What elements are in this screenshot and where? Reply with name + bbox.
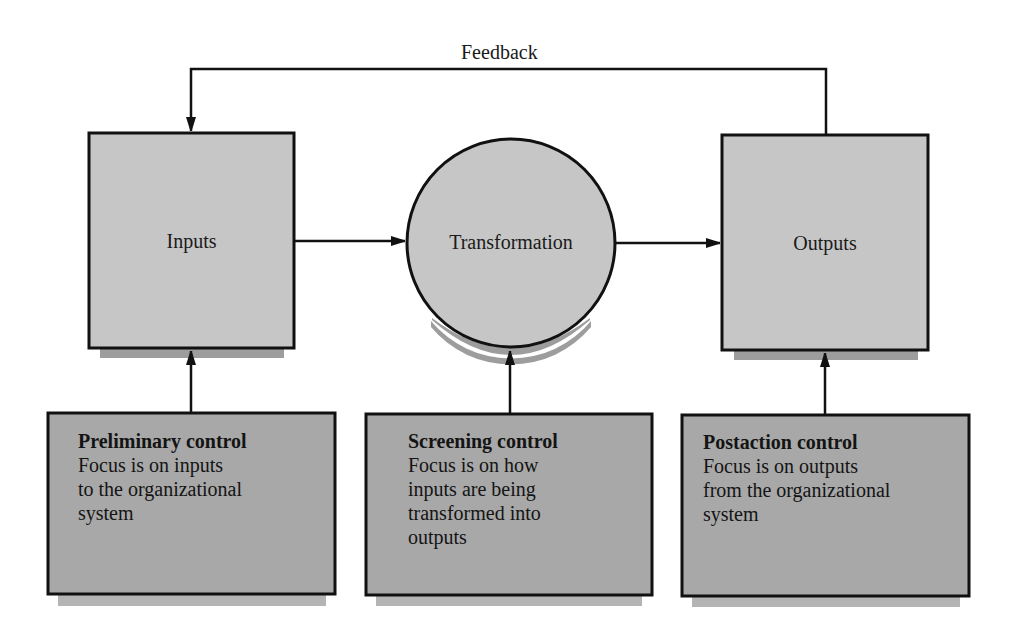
postaction-control-line: system [703,502,890,526]
preliminary-shadow [58,595,326,606]
feedback-label: Feedback [461,42,538,62]
screening-shadow [376,595,642,606]
postaction-control-title: Postaction control [703,430,890,454]
screening-control-line: Focus is on how [408,453,558,477]
postaction-control-line: from the organizational [703,478,890,502]
feedback-connector [191,69,826,134]
outputs-label: Outputs [722,233,928,253]
preliminary-control-text: Preliminary control Focus is on inputs t… [78,429,247,525]
postaction-control-text: Postaction control Focus is on outputs f… [703,430,890,526]
preliminary-control-line: to the organizational [78,477,247,501]
screening-control-line: outputs [408,525,558,549]
postaction-control-line: Focus is on outputs [703,454,890,478]
screening-control-text: Screening control Focus is on how inputs… [408,429,558,549]
screening-control-line: inputs are being [408,477,558,501]
screening-control-line: transformed into [408,501,558,525]
preliminary-control-title: Preliminary control [78,429,247,453]
postaction-shadow [692,596,960,607]
preliminary-control-line: system [78,501,247,525]
transformation-label: Transformation [407,232,615,252]
preliminary-control-line: Focus is on inputs [78,453,247,477]
inputs-label: Inputs [89,231,294,251]
screening-control-title: Screening control [408,429,558,453]
